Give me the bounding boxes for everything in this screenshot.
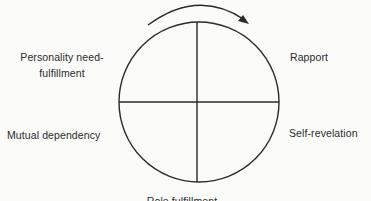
wheel-diagram [0, 0, 371, 201]
label-bottom-cut-off: Role fulfillment [146, 193, 218, 201]
label-personality-line-2: fulfillment [12, 65, 112, 81]
label-mutual-dependency: Mutual dependency [7, 127, 100, 143]
label-rapport: Rapport [290, 49, 328, 65]
label-personality-line-1: Personality need- [12, 49, 112, 65]
label-personality-need-fulfillment: Personality need- fulfillment [12, 49, 112, 81]
label-self-revelation: Self-revelation [289, 125, 358, 141]
